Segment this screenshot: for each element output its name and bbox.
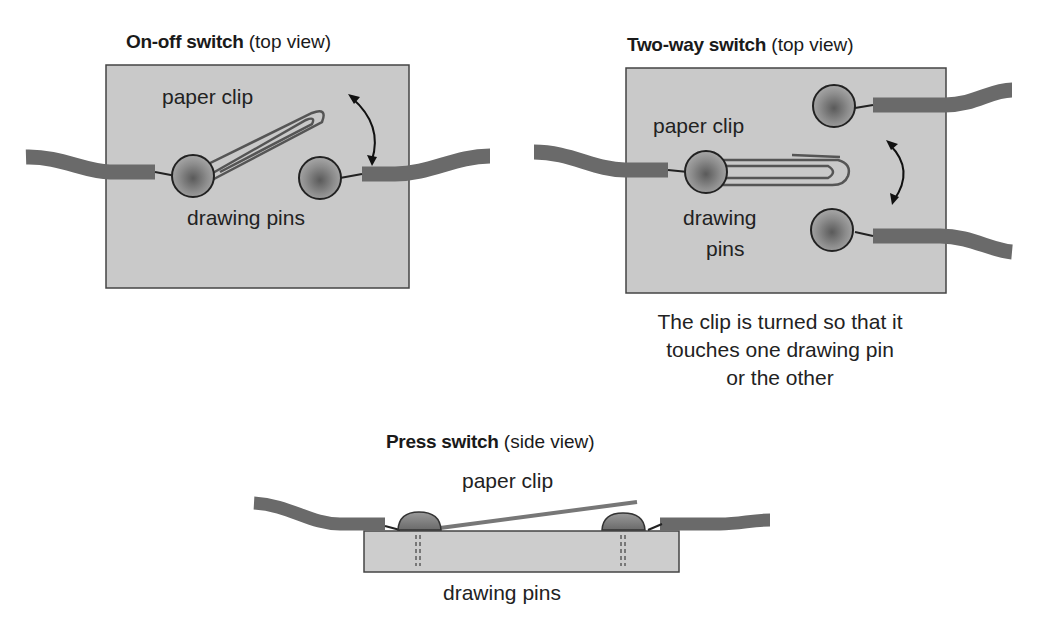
caption-line: The clip is turned so that it [610,308,950,336]
drawing-pin-icon [811,209,853,251]
board [364,531,679,572]
two-way-switch-title: Two-way switch (top view) [627,34,854,56]
drawing-pins-label: drawing pins [443,581,561,605]
drawing-pin-icon [602,513,645,530]
drawing-pin-icon [172,155,214,197]
drawing-pin-icon [813,85,855,127]
drawing-pins-label: drawing pins [187,206,305,230]
caption-line: touches one drawing pin [610,336,950,364]
paper-clip-label: paper clip [162,85,253,109]
drawing-pin-icon [398,512,441,530]
drawing-pin-icon [685,151,727,193]
drawing-pins-label-line1: drawing [683,206,757,230]
press-switch-diagram [254,502,770,572]
wire-icon [660,520,770,524]
drawing-pins-label-line2: pins [706,237,745,261]
two-way-switch-diagram [534,68,1012,293]
press-switch-title: Press switch (side view) [386,431,595,453]
drawing-pin-icon [299,157,341,199]
paper-clip-label: paper clip [653,114,744,138]
two-way-caption: The clip is turned so that it touches on… [610,308,950,392]
wire-icon [254,503,385,524]
paper-clip-label: paper clip [462,469,553,493]
on-off-switch-diagram [26,65,490,288]
caption-line: or the other [610,364,950,392]
on-off-switch-title: On-off switch (top view) [126,31,331,53]
